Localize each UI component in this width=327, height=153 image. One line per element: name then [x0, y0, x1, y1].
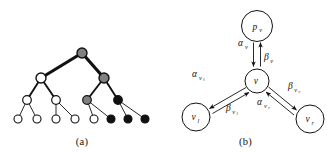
- edge-pv-v: [254, 43, 261, 67]
- label-beta-v: β: [263, 52, 269, 62]
- label-beta-vr-sub2: r: [298, 89, 300, 94]
- tree-leaf-black[interactable]: [107, 115, 115, 123]
- arrow-beta-vl-up: [213, 93, 250, 114]
- tree-node-white[interactable]: [23, 96, 32, 105]
- label-beta-vl: β: [225, 103, 231, 113]
- tree-node-white[interactable]: [36, 73, 46, 83]
- panel-a-binary-tree: (a): [0, 0, 164, 153]
- edge-v-vr: [266, 87, 297, 115]
- tree-edge-thick: [41, 53, 82, 78]
- node-label-pv: p: [252, 22, 258, 32]
- label-alpha-vr: α: [257, 97, 263, 107]
- node-label-vl-sub: l: [198, 117, 200, 124]
- tree-leaf-white[interactable]: [14, 115, 22, 123]
- label-alpha-vl: α: [192, 69, 198, 79]
- arrow-alpha-vr-up: [266, 92, 294, 115]
- label-alpha-v: α: [238, 38, 244, 48]
- label-beta-vr-sub: v: [294, 86, 297, 93]
- label-beta-v-sub: v: [270, 57, 273, 64]
- label-beta-vr: β: [287, 81, 293, 91]
- label-alpha-vl-sub: v: [199, 74, 202, 81]
- node-child-vl[interactable]: [182, 103, 210, 131]
- panel-b-message-passing: p v v v l v r α v β v α v l: [164, 0, 327, 153]
- tree-node-gray[interactable]: [83, 96, 92, 105]
- tree-node-root-gray[interactable]: [77, 48, 87, 58]
- tree-leaf-white[interactable]: [71, 115, 79, 123]
- tree-leaf-black[interactable]: [141, 115, 149, 123]
- label-alpha-vl-sub2: l: [203, 77, 205, 82]
- binary-tree-svg: [0, 0, 164, 140]
- caption-b: (b): [164, 136, 327, 147]
- tree-leaf-white[interactable]: [52, 115, 60, 123]
- caption-a: (a): [0, 136, 164, 147]
- label-beta-vl-sub: v: [232, 108, 235, 115]
- tree-edges: [18, 53, 145, 119]
- figure-root: (a): [0, 0, 327, 153]
- label-beta-vl-sub2: l: [236, 111, 238, 116]
- tree-leaf-white[interactable]: [33, 115, 41, 123]
- label-alpha-vr-sub: v: [264, 102, 267, 109]
- tree-node-gray[interactable]: [99, 73, 109, 83]
- node-label-pv-sub: v: [259, 26, 262, 33]
- label-alpha-v-sub: v: [245, 43, 248, 50]
- tree-node-black[interactable]: [114, 96, 123, 105]
- node-child-vr[interactable]: [296, 105, 324, 133]
- tree-nodes: [14, 48, 149, 123]
- message-passing-svg: p v v v l v r α v β v α v l: [164, 0, 327, 140]
- label-alpha-vr-sub2: r: [268, 105, 270, 110]
- tree-node-white[interactable]: [52, 96, 61, 105]
- tree-leaf-black[interactable]: [124, 115, 132, 123]
- tree-leaf-white[interactable]: [90, 115, 98, 123]
